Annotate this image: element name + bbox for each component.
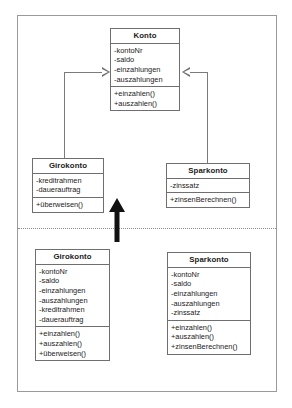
class-attributes-girokonto-bottom: -kontoNr -saldo -einzahlungen -auszahlun… [36,265,109,328]
attribute-row: -kreditrahmen [38,305,108,315]
attribute-row: -einzahlungen [170,289,249,299]
generalization-line-sparkonto-vertical [207,72,208,163]
class-box-konto[interactable]: Konto -kontoNr -saldo -einzahlungen -aus… [110,28,180,111]
attribute-row: -dauerauftrag [38,315,108,325]
class-box-sparkonto-top[interactable]: Sparkonto -zinssatz +zinsenBerechnen() [166,163,250,208]
generalization-line-girokonto-vertical [64,72,65,158]
method-row: +zinsenBerechnen() [169,195,248,205]
attribute-row: -einzahlungen [113,65,178,75]
class-attributes-konto: -kontoNr -saldo -einzahlungen -auszahlun… [111,44,179,87]
method-row: +auszahlen() [38,339,108,349]
attribute-row: -saldo [170,279,249,289]
attribute-row: -auszahlungen [170,299,249,309]
method-row: +auszahlen() [170,332,249,342]
generalization-line-sparkonto-horizontal [190,72,208,73]
method-row: +einzahlen() [170,323,249,333]
attribute-row: -einzahlungen [38,286,108,296]
class-methods-girokonto-top: +überweisen() [33,198,103,212]
class-name-sparkonto-top: Sparkonto [167,164,249,179]
attribute-row: -kontoNr [170,270,249,280]
method-row: +überweisen() [35,200,102,210]
method-row: +einzahlen() [38,329,108,339]
attribute-row: -dauerauftrag [35,185,102,195]
class-box-girokonto-bottom[interactable]: Girokonto -kontoNr -saldo -einzahlungen … [35,249,110,361]
method-row: +überweisen() [38,349,108,359]
attribute-row: -kontoNr [38,267,108,277]
attribute-row: -saldo [113,55,178,65]
class-box-sparkonto-bottom[interactable]: Sparkonto -kontoNr -saldo -einzahlungen … [167,252,251,355]
class-methods-konto: +einzahlen() +auszahlen() [111,87,179,110]
class-methods-sparkonto-bottom: +einzahlen() +auszahlen() +zinsenBerechn… [168,321,250,354]
method-row: +zinsenBerechnen() [170,342,249,352]
generalization-arrowhead-sparkonto [182,67,190,77]
attribute-row: -saldo [38,276,108,286]
class-name-girokonto-bottom: Girokonto [36,250,109,265]
attribute-row: -auszahlungen [113,75,178,85]
class-name-sparkonto-bottom: Sparkonto [168,253,250,268]
class-name-girokonto-top: Girokonto [33,159,103,174]
diagram-canvas: Konto -kontoNr -saldo -einzahlungen -aus… [0,0,292,408]
class-name-konto: Konto [111,29,179,44]
attribute-row: -zinssatz [169,181,248,191]
attribute-row: -zinssatz [170,308,249,318]
generalization-arrowhead-girokonto [102,67,110,77]
class-attributes-girokonto-top: -kreditrahmen -dauerauftrag [33,174,103,198]
attribute-row: -auszahlungen [38,296,108,306]
class-attributes-sparkonto-top: -zinssatz [167,179,249,194]
method-row: +auszahlen() [113,99,178,109]
generalization-line-girokonto-horizontal [64,72,102,73]
section-divider [18,228,276,229]
attribute-row: -kontoNr [113,46,178,56]
method-row: +einzahlen() [113,89,178,99]
class-box-girokonto-top[interactable]: Girokonto -kreditrahmen -dauerauftrag +ü… [32,158,104,213]
class-attributes-sparkonto-bottom: -kontoNr -saldo -einzahlungen -auszahlun… [168,268,250,321]
attribute-row: -kreditrahmen [35,176,102,186]
class-methods-sparkonto-top: +zinsenBerechnen() [167,193,249,207]
transformation-arrow-icon [108,198,126,242]
class-methods-girokonto-bottom: +einzahlen() +auszahlen() +überweisen() [36,327,109,360]
